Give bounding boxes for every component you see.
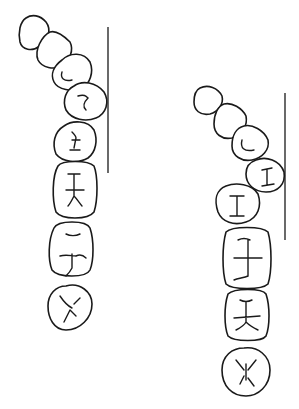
tooth-premolar-2 (216, 184, 259, 223)
tooth-molar-2 (225, 290, 269, 341)
left-arch (19, 16, 108, 330)
right-arch (194, 86, 285, 396)
dental-diagram (0, 0, 299, 409)
tooth-molar-2 (49, 222, 93, 276)
tooth-canine (232, 126, 268, 161)
